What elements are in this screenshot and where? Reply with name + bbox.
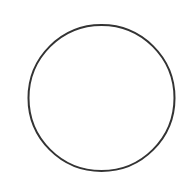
circle-shape [29, 25, 175, 171]
diagram-canvas [0, 0, 179, 183]
